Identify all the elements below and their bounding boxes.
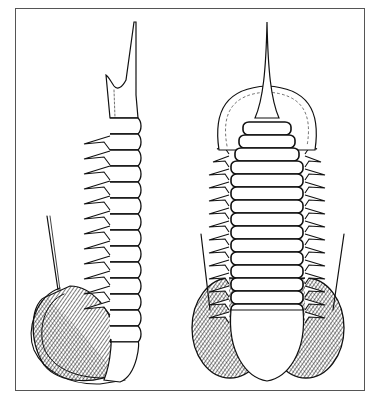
body-segment [110,214,141,230]
pleural-spine [84,241,110,255]
pleural-spine [84,181,110,195]
body-segment [239,135,295,148]
body-segment [231,278,303,291]
pleural-spine-left [209,208,229,219]
pleural-spine-right [305,156,321,167]
body-segment [110,310,141,326]
body-segment [110,118,141,134]
pleural-spine-right [305,247,325,258]
pleural-spine [84,166,110,180]
pleural-spine-right [305,208,325,219]
pleural-spine-right [305,182,325,193]
pleural-spine [84,256,110,270]
body-segment [231,239,303,252]
body-segment [110,246,141,262]
body-segment [243,122,291,135]
pleural-spine-left [209,260,229,271]
pleural-spine-right [305,195,325,206]
trilobite-illustration [0,0,376,406]
body-segment [110,134,141,150]
pleural-spine [84,226,110,240]
lateral-view [31,22,141,384]
pleural-spine-left [209,221,229,232]
body-segment [110,150,141,166]
body-segment [231,161,303,174]
body-segment [231,226,303,239]
dorsal-view [192,22,344,381]
body-segment [110,166,141,182]
pleural-spine-left [209,247,229,258]
body-segment [231,187,303,200]
pleural-spine [84,196,110,210]
body-segment [110,294,141,310]
body-segment [231,200,303,213]
antenna-inner [50,216,60,290]
pleural-spine-right [305,234,325,245]
body-segment [231,174,303,187]
body-segment [231,213,303,226]
pleural-spine-right [305,221,325,232]
cephalic-spine [106,22,138,118]
pleural-spine [84,151,110,165]
body-segment [110,262,141,278]
body-segment [110,198,141,214]
pleural-spine [84,136,110,150]
body-segment [110,278,141,294]
body-segment [231,252,303,265]
pleural-spine [84,271,110,285]
antenna [47,216,58,290]
pleural-spine [84,211,110,225]
pleural-spine-left [209,169,229,180]
pleural-spine-left [209,234,229,245]
body-segment [235,148,299,161]
body-segment [231,291,303,304]
body-segment [231,265,303,278]
pleural-spine-right [305,169,325,180]
body-segment [110,182,141,198]
body-segment [110,230,141,246]
pleural-spine-left [213,156,229,167]
pleural-spine-left [209,195,229,206]
pleural-spine-right [305,260,325,271]
body-segment [110,326,141,342]
pleural-spine-left [209,182,229,193]
